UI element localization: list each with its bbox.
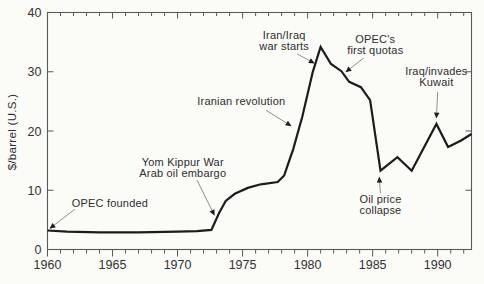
annotation-opec-founded-arrowhead (49, 223, 55, 229)
annotation-iranian-revolution-arrowhead (285, 121, 292, 126)
annotation-iraq-invades-kuwait-arrowhead (434, 112, 439, 118)
y-axis-tick-label: 10 (28, 184, 42, 198)
annotation-yom-kippur-text: Yom Kippur WarArab oil embargo (139, 156, 226, 179)
x-axis-tick-label: 1990 (424, 258, 452, 272)
y-axis-tick-label: 20 (28, 125, 42, 139)
annotation-opec-first-quotas-text: OPEC'sfirst quotas (347, 33, 404, 56)
annotation-opec-first-quotas-line-1: first quotas (347, 44, 404, 56)
annotation-iranian-revolution-text: Iranian revolution (197, 95, 285, 107)
x-axis-tick-label: 1965 (99, 258, 127, 272)
annotation-iraq-invades-kuwait-line-1: Kuwait (419, 76, 453, 88)
annotation-iran-iraq-war-line-1: war starts (258, 40, 309, 52)
annotation-yom-kippur-arrow (197, 180, 212, 210)
annotation-iraq-invades-kuwait-text: Iraq/invadesKuwait (405, 65, 468, 88)
chart-canvas: 1960196519701975198019851990010203040OPE… (0, 0, 484, 284)
oil-price-history-figure: $/barrel (U.S.) 196019651970197519801985… (0, 0, 484, 284)
y-axis-tick-label: 40 (28, 6, 42, 20)
annotation-opec-founded-arrow (54, 209, 75, 225)
x-axis-tick-label: 1970 (164, 258, 192, 272)
y-axis-tick-label: 30 (28, 65, 42, 79)
x-axis-tick-label: 1960 (34, 258, 62, 272)
annotation-iranian-revolution-line-0: Iranian revolution (197, 95, 285, 107)
annotation-opec-first-quotas-arrow (350, 58, 363, 69)
annotation-opec-founded-text: OPEC founded (72, 197, 148, 209)
annotation-iran-iraq-war-arrow (297, 54, 309, 61)
x-axis-tick-label: 1985 (359, 258, 387, 272)
annotation-oil-price-collapse-arrow (380, 183, 381, 194)
annotation-iraq-invades-kuwait-arrow (437, 92, 438, 113)
annotation-oil-price-collapse-text: Oil pricecollapse (359, 193, 401, 216)
x-axis-tick-label: 1980 (294, 258, 322, 272)
annotation-iran-iraq-war-text: Iran/Iraqwar starts (258, 29, 309, 52)
x-axis-tick-label: 1975 (229, 258, 257, 272)
annotation-opec-founded-line-0: OPEC founded (72, 197, 148, 209)
y-axis-title: $/barrel (U.S.) (6, 67, 22, 197)
annotation-oil-price-collapse-arrowhead (377, 177, 382, 183)
annotation-oil-price-collapse-line-1: collapse (359, 204, 401, 216)
annotation-iranian-revolution-arrow (266, 110, 287, 123)
annotation-opec-first-quotas-arrowhead (345, 67, 351, 73)
y-axis-tick-label: 0 (35, 243, 42, 257)
annotation-yom-kippur-line-1: Arab oil embargo (139, 167, 226, 179)
